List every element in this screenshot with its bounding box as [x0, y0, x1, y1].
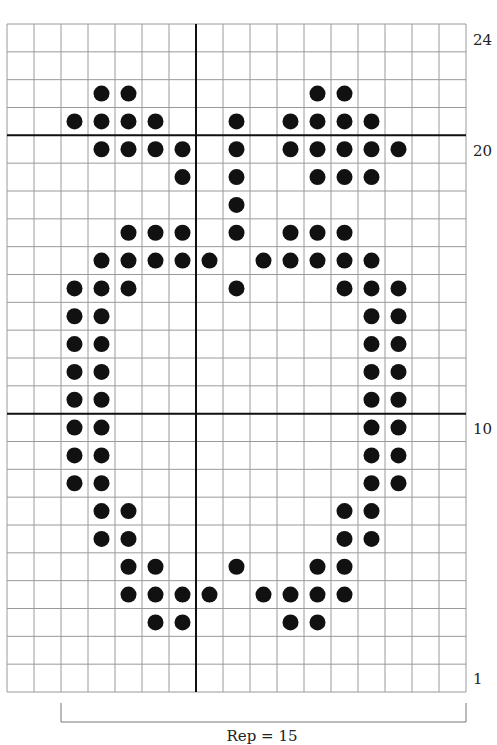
- stitch-dot: [121, 86, 137, 102]
- repeat-bracket: [61, 703, 466, 722]
- stitch-dot: [229, 225, 245, 241]
- stitch-dot: [121, 531, 137, 547]
- stitch-dot: [175, 141, 191, 157]
- stitch-dot: [364, 447, 380, 463]
- stitch-dot: [175, 225, 191, 241]
- stitch-dot: [67, 308, 83, 324]
- stitch-dot: [94, 531, 110, 547]
- stitch-dot: [229, 141, 245, 157]
- stitch-dot: [391, 141, 407, 157]
- stitch-dot: [67, 280, 83, 296]
- stitch-dot: [121, 280, 137, 296]
- stitch-dot: [283, 141, 299, 157]
- stitch-dot: [364, 280, 380, 296]
- stitch-dot: [229, 197, 245, 213]
- stitch-dot: [337, 169, 353, 185]
- stitch-dot: [67, 113, 83, 129]
- stitch-dot: [148, 614, 164, 630]
- stitch-dot: [202, 253, 218, 269]
- stitch-dot: [391, 447, 407, 463]
- stitch-dot: [364, 336, 380, 352]
- stitch-dot: [364, 141, 380, 157]
- stitch-dot: [175, 614, 191, 630]
- stitch-dot: [175, 587, 191, 603]
- stitch-dot: [94, 253, 110, 269]
- stitch-dot: [121, 225, 137, 241]
- stitch-dot: [364, 169, 380, 185]
- stitch-dot: [283, 225, 299, 241]
- stitch-dot: [175, 253, 191, 269]
- stitch-dot: [67, 336, 83, 352]
- stitch-dot: [94, 364, 110, 380]
- stitch-dot: [391, 336, 407, 352]
- stitch-dot: [148, 113, 164, 129]
- stitch-dot: [256, 253, 272, 269]
- stitch-dot: [67, 392, 83, 408]
- stitch-dot: [121, 141, 137, 157]
- stitch-dot: [121, 503, 137, 519]
- stitch-dot: [148, 587, 164, 603]
- stitch-dot: [94, 308, 110, 324]
- stitch-dot: [391, 420, 407, 436]
- stitch-dot: [310, 169, 326, 185]
- stitch-dot: [364, 420, 380, 436]
- stitch-dot: [364, 531, 380, 547]
- stitch-dot: [310, 86, 326, 102]
- stitch-dot: [310, 141, 326, 157]
- stitch-dot: [364, 364, 380, 380]
- row-label-24: 24: [473, 32, 492, 48]
- stitch-dot: [175, 169, 191, 185]
- stitch-dot: [94, 86, 110, 102]
- stitch-dot: [337, 587, 353, 603]
- stitch-dot: [391, 392, 407, 408]
- stitch-dot: [67, 447, 83, 463]
- stitch-dot: [337, 253, 353, 269]
- repeat-label: Rep = 15: [0, 727, 497, 745]
- stitch-dot: [364, 503, 380, 519]
- stitch-dot: [337, 86, 353, 102]
- row-label-1: 1: [473, 671, 483, 687]
- stitch-dot: [94, 141, 110, 157]
- stitch-dot: [364, 392, 380, 408]
- stitch-dot: [337, 225, 353, 241]
- stitch-dot: [94, 503, 110, 519]
- stitch-dot: [67, 420, 83, 436]
- stitch-dot: [310, 225, 326, 241]
- stitch-dot: [256, 587, 272, 603]
- stitch-dot: [229, 113, 245, 129]
- stitch-dot: [148, 141, 164, 157]
- stitch-dot: [67, 364, 83, 380]
- stitch-dot: [67, 475, 83, 491]
- stitch-dot: [148, 559, 164, 575]
- stitch-dot: [121, 253, 137, 269]
- stitch-dot: [391, 364, 407, 380]
- stitch-dot: [229, 169, 245, 185]
- stitch-dot: [391, 475, 407, 491]
- stitch-dot: [283, 587, 299, 603]
- stitch-dot: [94, 336, 110, 352]
- stitch-dot: [94, 475, 110, 491]
- stitch-dot: [364, 113, 380, 129]
- stitch-dot: [310, 614, 326, 630]
- stitch-dot: [229, 559, 245, 575]
- stitch-dot: [310, 113, 326, 129]
- stitch-dot: [337, 280, 353, 296]
- stitch-dot: [337, 559, 353, 575]
- stitch-dot: [310, 559, 326, 575]
- stitch-dot: [337, 531, 353, 547]
- stitch-dot: [283, 113, 299, 129]
- stitch-dot: [94, 447, 110, 463]
- stitch-dot: [94, 280, 110, 296]
- stitch-dot: [148, 225, 164, 241]
- stitch-dot: [391, 308, 407, 324]
- stitch-dot: [148, 253, 164, 269]
- stitch-dot: [121, 559, 137, 575]
- stitch-dot: [94, 113, 110, 129]
- stitch-dot: [283, 614, 299, 630]
- stitch-dot: [310, 253, 326, 269]
- stitch-dot: [337, 503, 353, 519]
- stitch-dot: [121, 587, 137, 603]
- stitch-dot: [337, 113, 353, 129]
- stitch-dot: [283, 253, 299, 269]
